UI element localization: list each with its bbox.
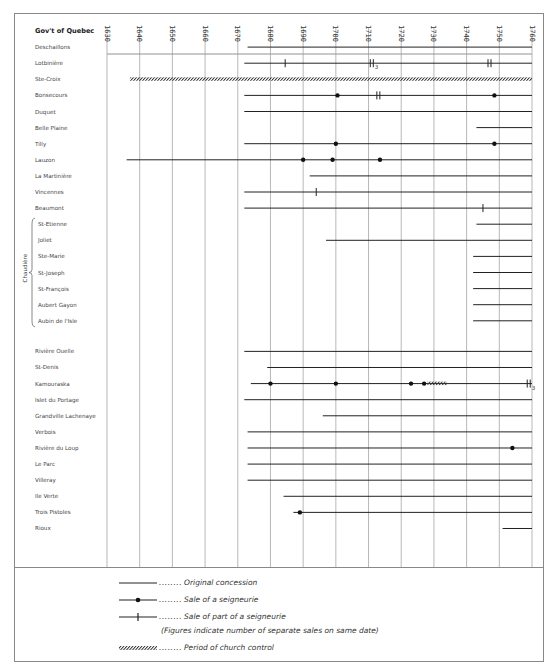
row-label: Duquet	[35, 109, 56, 116]
x-tick-label: 1730	[429, 25, 437, 42]
x-tick-label: 1700	[331, 25, 339, 42]
row-label: St-Joseph	[38, 270, 65, 277]
row-label: St-François	[38, 286, 69, 293]
sale-dot	[330, 158, 334, 162]
sale-dot	[268, 381, 272, 385]
row-label: Trois Pistoles	[34, 509, 71, 515]
sale-dot	[492, 142, 496, 146]
sale-dot	[510, 446, 514, 450]
row-label: Grandville Lachenaye	[35, 413, 96, 420]
row-label: Joliet	[37, 237, 53, 244]
row-label: Lotbinière	[35, 60, 63, 66]
sale-dot	[335, 93, 339, 97]
sale-dot	[334, 142, 338, 146]
church-control-bar	[130, 77, 532, 81]
row-label: Gov't of Quebec	[35, 27, 94, 35]
row-label: La Martinière	[35, 173, 72, 179]
row-label: St-Denis	[35, 364, 59, 370]
row-label: Aubert Gayon	[38, 302, 77, 309]
sale-dot	[301, 158, 305, 162]
x-tick-label: 1690	[299, 25, 307, 42]
x-tick-label: 1680	[266, 25, 274, 42]
row-label: Deschaillons	[35, 44, 70, 50]
row-label: Villeray	[35, 477, 57, 484]
group-label: Chaudière	[22, 253, 28, 282]
row-label: St-Etienne	[38, 221, 68, 227]
part-sale-count: 3	[532, 385, 536, 391]
row-label: Kamouraska	[35, 381, 70, 387]
line-icon	[119, 579, 157, 587]
legend-part: ........ Sale of part of a seigneurie	[119, 612, 286, 621]
sale-dot	[378, 158, 382, 162]
row-label: Lauzon	[35, 157, 55, 163]
row-label: Rioux	[35, 525, 51, 531]
x-tick-label: 1720	[397, 25, 405, 42]
row-label: Beaumont	[35, 205, 65, 211]
x-tick-label: 1750	[495, 25, 503, 42]
x-tick-label: 1660	[201, 25, 209, 42]
sale-dot	[492, 93, 496, 97]
dot-line-icon	[119, 596, 157, 604]
legend-note: (Figures indicate number of separate sal…	[161, 626, 379, 635]
group-bracket	[29, 218, 35, 327]
row-label: Ste-Croix	[35, 76, 61, 82]
row-label: Belle Plaine	[35, 125, 68, 131]
row-label: Vincennes	[35, 189, 64, 195]
x-tick-label: 1630	[103, 25, 111, 42]
sale-dot	[298, 510, 302, 514]
timeline-chart: 1630164016501660167016801690170017101720…	[15, 14, 543, 567]
x-tick-label: 1640	[135, 25, 143, 42]
row-label: Tilly	[34, 141, 47, 148]
row-label: Bonsecours	[35, 92, 68, 98]
x-tick-label: 1710	[364, 25, 372, 42]
legend-sale: ........ Sale of a seigneurie	[119, 595, 258, 604]
row-label: Islet du Portage	[35, 397, 79, 404]
sale-dot	[334, 381, 338, 385]
chart-frame: 1630164016501660167016801690170017101720…	[14, 13, 544, 568]
tick-line-icon	[119, 613, 157, 621]
row-label: Rivière Ouelle	[35, 348, 75, 354]
x-tick-label: 1760	[528, 25, 536, 42]
x-tick-label: 1650	[168, 25, 176, 42]
x-tick-label: 1670	[233, 25, 241, 42]
row-label: Aubin de l'Isle	[38, 318, 78, 324]
row-label: Rivière du Loup	[35, 445, 79, 452]
part-sale-count: 3	[375, 64, 379, 70]
hatch-icon	[119, 644, 157, 652]
row-label: Ile Verte	[35, 493, 59, 499]
row-label: Verbois	[35, 429, 56, 435]
church-control-bar	[427, 382, 447, 386]
legend: ........ Original concession ........ Sa…	[14, 566, 544, 662]
legend-original: ........ Original concession	[119, 578, 257, 587]
x-tick-label: 1740	[462, 25, 470, 42]
sale-dot	[409, 381, 413, 385]
sale-dot	[422, 381, 426, 385]
row-label: Ste-Marie	[38, 253, 65, 259]
legend-church: ........ Period of church control	[119, 643, 274, 652]
row-label: Le Parc	[35, 461, 55, 467]
